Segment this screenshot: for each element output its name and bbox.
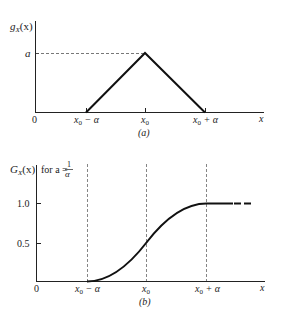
caption-b: (b) xyxy=(139,296,151,308)
cdf-curve xyxy=(87,204,233,282)
x-tick-label-x0-plus-alpha: x0 + α xyxy=(192,114,219,127)
triangle-density-curve xyxy=(86,53,205,113)
x-tick-label-x0-minus-alpha: x0 − α xyxy=(73,114,100,127)
figure: gX(x) a 0 x0 − α x0 x0 + α x (a) GX(x) f… xyxy=(0,0,284,322)
note-numerator: 1 xyxy=(67,160,71,169)
panel-a: gX(x) a 0 x0 − α x0 x0 + α x (a) xyxy=(10,20,264,139)
y-axis-label: GX(x) xyxy=(10,163,35,177)
x-axis-label: x xyxy=(258,113,264,124)
panel-b: GX(x) for a = 1 α 1.0 0.5 0 x0 − α x0 x0… xyxy=(10,160,265,308)
x-tick-label-x0: x0 xyxy=(141,283,150,296)
x-tick-label-x0-plus-alpha: x0 + α xyxy=(194,283,221,296)
x-axis-label: x xyxy=(259,282,265,293)
x-tick-label-x0: x0 xyxy=(140,114,149,127)
y-tick-label-a: a xyxy=(25,47,31,59)
x-tick-label-x0-minus-alpha: x0 − α xyxy=(74,283,101,296)
caption-a: (a) xyxy=(138,127,150,139)
origin-label: 0 xyxy=(32,114,37,125)
origin-label: 0 xyxy=(34,283,39,294)
note-denominator: α xyxy=(65,169,70,179)
y-tick-label-1: 1.0 xyxy=(17,198,30,209)
y-tick-label-05: 0.5 xyxy=(17,238,30,249)
y-axis-label: gX(x) xyxy=(10,20,33,34)
